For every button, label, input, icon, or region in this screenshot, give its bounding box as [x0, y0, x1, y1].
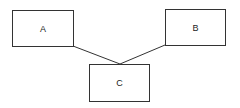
node-b: B — [165, 9, 226, 46]
node-a-label: A — [40, 24, 46, 34]
edge-b-to-c — [120, 45, 165, 64]
node-a: A — [12, 10, 74, 47]
node-c-label: C — [116, 78, 123, 88]
node-c: C — [89, 64, 150, 102]
edge-a-to-c — [73, 46, 120, 64]
node-b-label: B — [192, 23, 198, 33]
